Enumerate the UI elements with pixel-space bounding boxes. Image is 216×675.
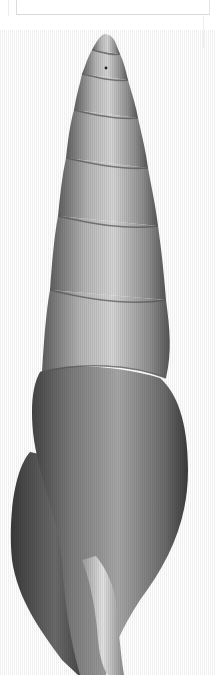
scan-texture <box>0 30 216 675</box>
shell-specimen <box>0 0 216 675</box>
